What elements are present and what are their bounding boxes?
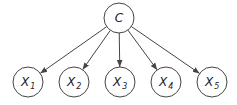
node-label: C <box>115 11 124 25</box>
node-c: C <box>104 3 134 33</box>
edges <box>40 27 199 74</box>
node-subscript: 2 <box>76 82 81 91</box>
node-subscript: 3 <box>122 82 127 91</box>
node-x2: X2 <box>59 67 89 97</box>
edge-c-to-x5 <box>131 27 199 74</box>
node-subscript: 4 <box>168 82 173 91</box>
edge-c-to-x3 <box>119 33 120 67</box>
node-subscript: 5 <box>214 82 219 91</box>
node-x1: X1 <box>13 67 43 97</box>
node-x3: X3 <box>105 67 135 97</box>
naive-bayes-diagram: CX1X2X3X4X5 <box>0 0 237 105</box>
node-subscript: 1 <box>30 82 35 91</box>
edge-c-to-x2 <box>83 30 111 69</box>
node-x5: X5 <box>197 67 227 97</box>
edge-c-to-x4 <box>128 30 157 70</box>
node-x4: X4 <box>151 67 181 97</box>
